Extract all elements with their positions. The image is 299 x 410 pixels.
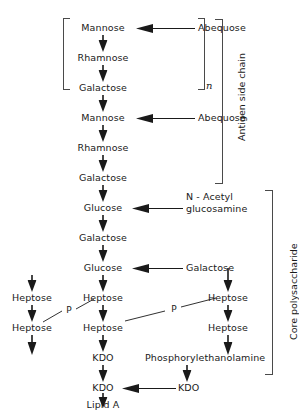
- arrow-galactose-3-to-glucose-2: [99, 245, 108, 262]
- node-galactose-1: Galactose: [79, 82, 127, 93]
- node-n-acetylglucosamine-line2: glucosamine: [186, 203, 247, 214]
- node-lipid-a: Lipid A: [87, 399, 120, 410]
- core-polysaccharide-label: Core polysaccharide: [288, 243, 299, 340]
- node-rhamnose-1: Rhamnose: [77, 52, 128, 63]
- antigen-side-chain-bracket: [215, 19, 223, 184]
- node-heptose-left-2: Heptose: [12, 322, 52, 333]
- arrow-heptose-mid-2-to-kdo-1: [99, 335, 108, 352]
- arrow-heptose-left-1-to-2: [28, 305, 37, 322]
- arrow-abequose-to-mannose-2: [136, 113, 196, 124]
- node-kdo-2: KDO: [92, 382, 113, 393]
- phosphate-label-left: P: [66, 305, 71, 315]
- phosphate-label-right: P: [171, 304, 176, 314]
- node-rhamnose-2: Rhamnose: [77, 142, 128, 153]
- node-mannose-1: Mannose: [81, 22, 124, 33]
- node-phosphorylethanolamine: Phosphorylethanolamine: [145, 352, 265, 363]
- arrow-kdo-branch-to-kdo-2: [122, 383, 177, 394]
- arrow-rhamnose-1-to-galactose-1: [99, 65, 108, 82]
- node-n-acetylglucosamine-line1: N - Acetyl: [186, 191, 233, 202]
- node-glucose-1: Glucose: [84, 202, 123, 213]
- arrow-galactose-branch-to-glucose-2: [132, 263, 184, 274]
- node-kdo-1: KDO: [92, 352, 113, 363]
- antigen-side-chain-label: Antigen side chain: [236, 53, 247, 141]
- repeat-unit-bracket-left: [63, 18, 70, 90]
- arrow-heptose-right-1-to-2: [224, 305, 233, 322]
- core-polysaccharide-bracket: [265, 190, 273, 375]
- arrow-abequose-to-mannose-1: [136, 23, 196, 34]
- arrow-galactose-1-to-mannose-2: [99, 95, 108, 112]
- node-heptose-mid-2: Heptose: [83, 322, 123, 333]
- node-heptose-right-2: Heptose: [208, 322, 248, 333]
- arrow-into-heptose-left-1: [28, 275, 37, 292]
- node-kdo-branch: KDO: [178, 382, 199, 393]
- arrow-mannose-1-to-rhamnose-1: [99, 35, 108, 52]
- arrow-kdo-1-to-kdo-2: [99, 365, 108, 382]
- arrow-glucose-1-to-galactose-3: [99, 215, 108, 232]
- arrow-mannose-2-to-rhamnose-2: [99, 125, 108, 142]
- lps-structure-diagram: n Mannose Abequose Rhamnose Galactose Ma…: [0, 0, 299, 410]
- node-mannose-2: Mannose: [81, 112, 124, 123]
- node-glucose-2: Glucose: [84, 262, 123, 273]
- arrow-into-heptose-right-1: [224, 268, 233, 292]
- arrow-n-acetylglucosamine-to-glucose-1: [132, 203, 184, 214]
- arrow-galactose-2-to-glucose-1: [99, 185, 108, 202]
- node-galactose-3: Galactose: [79, 232, 127, 243]
- node-galactose-2: Galactose: [79, 172, 127, 183]
- arrow-phosphorylethanolamine-to-kdo-branch: [183, 365, 192, 382]
- arrow-out-of-heptose-left-2: [28, 335, 37, 355]
- arrow-rhamnose-2-to-galactose-2: [99, 155, 108, 172]
- repeat-subscript-n: n: [206, 80, 212, 91]
- arrow-glucose-2-to-heptose-mid-1: [99, 275, 108, 292]
